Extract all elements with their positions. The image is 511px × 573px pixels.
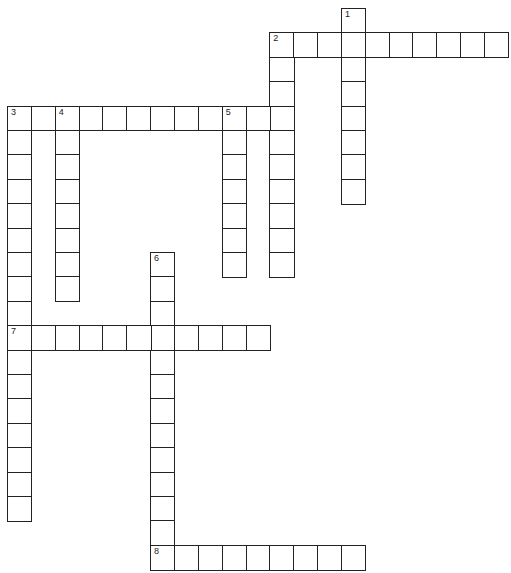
crossword-cell[interactable]	[7, 276, 32, 302]
crossword-cell[interactable]	[341, 154, 366, 180]
crossword-cell[interactable]	[102, 325, 127, 351]
crossword-cell[interactable]	[55, 276, 80, 302]
crossword-cell[interactable]	[222, 545, 247, 571]
crossword-cell[interactable]	[293, 32, 318, 58]
crossword-cell[interactable]	[150, 472, 175, 498]
crossword-cell[interactable]: 1	[341, 8, 366, 34]
crossword-cell[interactable]	[7, 472, 32, 498]
crossword-cell[interactable]	[269, 179, 294, 205]
crossword-cell[interactable]	[246, 545, 271, 571]
crossword-cell[interactable]	[269, 81, 294, 107]
crossword-cell[interactable]	[55, 228, 80, 254]
crossword-cell[interactable]	[7, 301, 32, 327]
crossword-cell[interactable]	[7, 203, 32, 229]
crossword-cell[interactable]: 6	[150, 252, 175, 278]
crossword-cell[interactable]: 2	[269, 32, 294, 58]
crossword-cell[interactable]: 4	[55, 106, 80, 132]
crossword-cell[interactable]	[126, 325, 151, 351]
crossword-cell[interactable]	[293, 545, 318, 571]
crossword-cell[interactable]	[222, 228, 247, 254]
crossword-cell[interactable]	[198, 106, 223, 132]
crossword-cell[interactable]	[484, 32, 509, 58]
crossword-cell[interactable]	[269, 154, 294, 180]
crossword-cell[interactable]	[7, 130, 32, 156]
crossword-cell[interactable]: 5	[222, 106, 247, 132]
crossword-cell[interactable]	[174, 325, 199, 351]
crossword-cell[interactable]	[246, 325, 271, 351]
crossword-cell[interactable]	[222, 252, 247, 278]
crossword-cell[interactable]	[7, 228, 32, 254]
crossword-cell[interactable]	[55, 130, 80, 156]
crossword-cell[interactable]	[150, 276, 175, 302]
crossword-cell[interactable]	[150, 106, 175, 132]
crossword-cell[interactable]	[222, 154, 247, 180]
crossword-cell[interactable]	[174, 545, 199, 571]
crossword-cell[interactable]	[389, 32, 414, 58]
crossword-cell[interactable]	[31, 106, 56, 132]
crossword-cell[interactable]	[269, 252, 294, 278]
crossword-cell[interactable]	[222, 179, 247, 205]
crossword-cell[interactable]	[246, 106, 271, 132]
crossword-cell[interactable]	[7, 496, 32, 522]
crossword-cell[interactable]	[412, 32, 437, 58]
crossword-cell[interactable]	[55, 179, 80, 205]
crossword-cell[interactable]	[7, 423, 32, 449]
crossword-cell[interactable]	[7, 252, 32, 278]
crossword-cell[interactable]	[79, 325, 104, 351]
crossword-cell[interactable]	[269, 57, 294, 83]
crossword-cell[interactable]	[55, 203, 80, 229]
crossword-cell[interactable]	[436, 32, 461, 58]
crossword-cell[interactable]	[365, 32, 390, 58]
clue-number: 1	[345, 10, 350, 19]
crossword-cell[interactable]	[7, 447, 32, 473]
crossword-cell[interactable]	[7, 154, 32, 180]
crossword-cell[interactable]	[150, 350, 175, 376]
crossword-cell[interactable]	[31, 325, 56, 351]
crossword-cell[interactable]	[55, 252, 80, 278]
crossword-cell[interactable]	[7, 179, 32, 205]
crossword-cell[interactable]	[150, 423, 175, 449]
crossword-cell[interactable]	[341, 106, 366, 132]
crossword-cell[interactable]: 7	[7, 325, 32, 351]
crossword-cell[interactable]	[102, 106, 127, 132]
crossword-cell[interactable]	[269, 106, 294, 132]
crossword-cell[interactable]	[341, 32, 366, 58]
crossword-cell[interactable]	[341, 130, 366, 156]
clue-number: 4	[59, 108, 64, 117]
crossword-cell[interactable]	[269, 203, 294, 229]
crossword-cell[interactable]	[341, 545, 366, 571]
crossword-cell[interactable]: 3	[7, 106, 32, 132]
crossword-cell[interactable]	[269, 228, 294, 254]
crossword-cell[interactable]	[150, 496, 175, 522]
crossword-cell[interactable]	[222, 130, 247, 156]
crossword-cell[interactable]	[150, 447, 175, 473]
crossword-cell[interactable]	[150, 301, 175, 327]
crossword-cell[interactable]	[174, 106, 199, 132]
crossword-cell[interactable]: 8	[150, 545, 175, 571]
crossword-cell[interactable]	[341, 81, 366, 107]
crossword-cell[interactable]	[7, 398, 32, 424]
crossword-cell[interactable]	[55, 325, 80, 351]
crossword-cell[interactable]	[222, 325, 247, 351]
crossword-cell[interactable]	[341, 57, 366, 83]
crossword-cell[interactable]	[341, 179, 366, 205]
crossword-cell[interactable]	[222, 203, 247, 229]
crossword-cell[interactable]	[150, 398, 175, 424]
crossword-cell[interactable]	[198, 325, 223, 351]
crossword-cell[interactable]	[460, 32, 485, 58]
clue-number: 2	[273, 34, 278, 43]
crossword-cell[interactable]	[317, 545, 342, 571]
crossword-cell[interactable]	[150, 520, 175, 546]
crossword-cell[interactable]	[198, 545, 223, 571]
crossword-cell[interactable]	[126, 106, 151, 132]
crossword-cell[interactable]	[55, 154, 80, 180]
crossword-cell[interactable]	[269, 130, 294, 156]
crossword-cell[interactable]	[79, 106, 104, 132]
crossword-cell[interactable]	[7, 374, 32, 400]
crossword-cell[interactable]	[150, 325, 175, 351]
crossword-cell[interactable]	[150, 374, 175, 400]
crossword-grid: 12345768	[0, 0, 511, 573]
crossword-cell[interactable]	[317, 32, 342, 58]
crossword-cell[interactable]	[7, 350, 32, 376]
crossword-cell[interactable]	[269, 545, 294, 571]
